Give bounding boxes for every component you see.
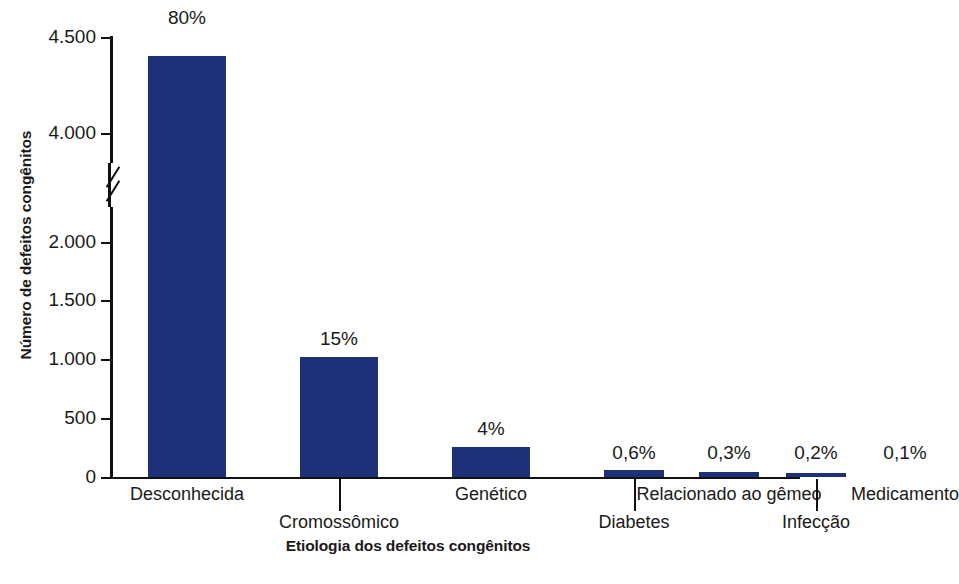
- y-axis-line: [110, 36, 113, 479]
- bar-value-medicamento: 0,1%: [883, 442, 926, 464]
- y-tick-label-1500: 1.500: [48, 289, 96, 311]
- bar-relacionado-ao-gemeo: [699, 472, 759, 477]
- y-tick-label-1000: 1.000: [48, 348, 96, 370]
- category-label-infeccao: Infecção: [782, 512, 850, 533]
- category-label-medicamento: Medicamento: [851, 484, 959, 505]
- bar-diabetes: [604, 470, 664, 477]
- category-label-genetico: Genético: [455, 484, 527, 505]
- plot-area: 4.500 4.000 2.000 1.500 1.000 500 0: [110, 36, 800, 478]
- bar-value-cromossomico: 15%: [320, 328, 358, 350]
- x-axis-title: Etiologia dos defeitos congênitos: [0, 537, 816, 555]
- bar-genetico: [452, 447, 530, 477]
- category-label-cromossomico: Cromossômico: [279, 512, 399, 533]
- y-tick-label-2000: 2.000: [48, 231, 96, 253]
- bar-value-diabetes: 0,6%: [612, 442, 655, 464]
- bar-desconhecida: [148, 56, 226, 477]
- category-label-relacionado-ao-gemeo: Relacionado ao gêmeo: [636, 484, 821, 505]
- bar-value-relacionado-ao-gemeo: 0,3%: [707, 442, 750, 464]
- bar-value-infeccao: 0,2%: [794, 442, 837, 464]
- category-leader-cromossomico: [339, 479, 341, 511]
- category-label-diabetes: Diabetes: [598, 512, 669, 533]
- y-tick-label-4000: 4.000: [48, 122, 96, 144]
- bar-cromossomico: [300, 357, 378, 477]
- category-leader-diabetes: [634, 479, 636, 511]
- bar-infeccao: [786, 473, 846, 477]
- y-tick-label-4500: 4.500: [48, 26, 96, 48]
- y-tick-label-500: 500: [64, 407, 96, 429]
- y-axis-title: Número de defeitos congênitos: [17, 85, 35, 405]
- bar-value-genetico: 4%: [477, 418, 504, 440]
- bar-value-desconhecida: 80%: [168, 7, 206, 29]
- category-label-desconhecida: Desconhecida: [130, 484, 244, 505]
- category-leader-infeccao: [816, 479, 818, 511]
- x-axis-line: [110, 477, 800, 480]
- y-tick-label-0: 0: [85, 466, 96, 488]
